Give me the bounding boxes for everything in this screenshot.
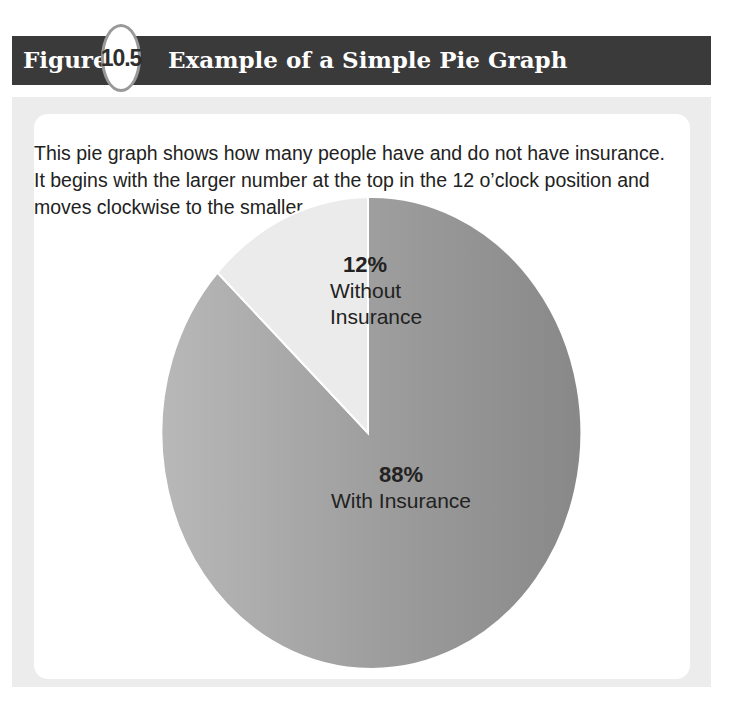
label-with-insurance: 88% With Insurance (301, 462, 501, 514)
figure-label: Figure (23, 42, 108, 78)
label-with-pct: 88% (301, 462, 501, 488)
figure-number-badge: 10.5 (101, 24, 141, 92)
label-without-name: Without Insurance (330, 278, 400, 330)
figure-title: Example of a Simple Pie Graph (168, 42, 567, 78)
label-with-name: With Insurance (301, 488, 501, 514)
pie-chart: 12% Without Insurance 88% With Insurance (146, 192, 588, 670)
label-without-pct: 12% (280, 252, 450, 278)
label-without-insurance: 12% Without Insurance (280, 252, 450, 330)
